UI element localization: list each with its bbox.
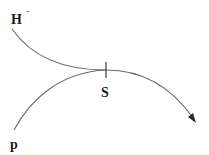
outgoing-curve [106, 70, 193, 118]
arrowhead-icon [188, 113, 196, 123]
label-h-superscript: - [26, 6, 29, 16]
label-p: p [10, 137, 18, 152]
lower-curve [14, 70, 106, 130]
curves-diagram: H - S p [0, 0, 209, 155]
label-s: S [101, 85, 109, 100]
label-h: H [11, 12, 22, 27]
upper-curve [12, 29, 106, 70]
